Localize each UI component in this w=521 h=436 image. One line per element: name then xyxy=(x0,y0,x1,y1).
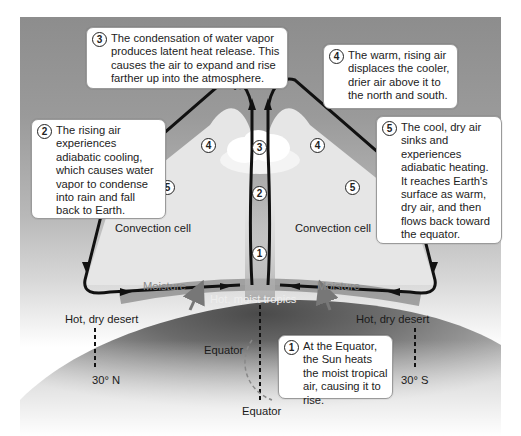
step-number: 3 xyxy=(92,32,107,47)
step-3-callout: 3 The condensation of water vapor produc… xyxy=(86,27,288,89)
path-badge-4-right: 4 xyxy=(310,138,325,153)
equator-bottom-label: Equator xyxy=(242,405,281,417)
step-1-callout: 1 At the Equator, the Sun heats the mois… xyxy=(278,335,393,399)
hot-dry-desert-left-label: Hot, dry desert xyxy=(65,313,138,325)
step-5-callout: 5 The cool, dry air sinks and experience… xyxy=(376,116,502,244)
hadley-cell-diagram: Dry, cold air Convection cell Convection… xyxy=(0,0,521,436)
lat-south-label: 30° S xyxy=(401,374,429,386)
step-text: The condensation of water vapor produces… xyxy=(111,32,283,86)
path-badge-5-right: 5 xyxy=(345,180,360,195)
moisture-right-label: Moisture xyxy=(317,280,360,292)
step-number: 1 xyxy=(284,340,299,355)
path-badge-4-left: 4 xyxy=(201,138,216,153)
step-number: 5 xyxy=(382,121,397,136)
moisture-left-label: Moisture xyxy=(143,280,186,292)
step-2-callout: 2 The rising air experiences adiabatic c… xyxy=(31,119,166,219)
step-4-callout: 4 The warm, rising air displaces the coo… xyxy=(323,44,458,109)
step-text: At the Equator, the Sun heats the moist … xyxy=(303,340,388,407)
step-number: 2 xyxy=(37,124,52,139)
step-number: 4 xyxy=(329,49,344,64)
step-text: The cool, dry air sinks and experiences … xyxy=(401,121,497,242)
step-text: The warm, rising air displaces the coole… xyxy=(348,49,453,103)
path-badge-1: 1 xyxy=(252,246,267,261)
convection-cell-left-label: Convection cell xyxy=(115,222,191,234)
convection-cell-right-label: Convection cell xyxy=(295,222,371,234)
hot-moist-tropics-label: Hot, moist tropics xyxy=(210,293,296,305)
equator-inner-label: Equator xyxy=(204,344,243,356)
step-text: The rising air experiences adiabatic coo… xyxy=(56,124,161,218)
path-badge-2: 2 xyxy=(252,186,267,201)
lat-north-label: 30° N xyxy=(92,374,120,386)
hot-dry-desert-right-label: Hot, dry desert xyxy=(356,313,429,325)
path-badge-3: 3 xyxy=(252,140,267,155)
